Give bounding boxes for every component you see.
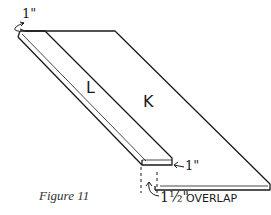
top-offset-label: 1" xyxy=(22,7,36,20)
figure-caption: Figure 11 xyxy=(39,188,89,204)
bottom-offset-label: 1" xyxy=(185,159,199,172)
overlap-amount: 1½" xyxy=(160,190,189,204)
board-l-label: L xyxy=(86,80,95,96)
overlap-text: OVERLAP xyxy=(186,193,237,204)
board-k-label: K xyxy=(143,94,154,110)
overlap-boards-drawing xyxy=(0,0,271,215)
bottom-dimension-arrow xyxy=(174,162,184,168)
figure-11-diagram: 1" L K 1" 1½" OVERLAP Figure 11 xyxy=(0,0,271,215)
